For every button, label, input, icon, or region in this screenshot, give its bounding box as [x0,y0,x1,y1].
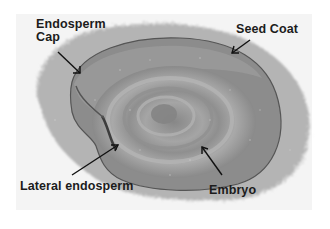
label-embryo: Embryo [209,184,256,197]
label-endosperm-cap-line2: Cap [36,31,106,44]
label-endosperm-cap: Endosperm Cap [36,18,106,44]
label-lateral-endosperm: Lateral endosperm [20,180,134,193]
seed-figure: Endosperm Cap Seed Coat Lateral endosper… [0,0,330,229]
label-seed-coat: Seed Coat [236,23,298,36]
